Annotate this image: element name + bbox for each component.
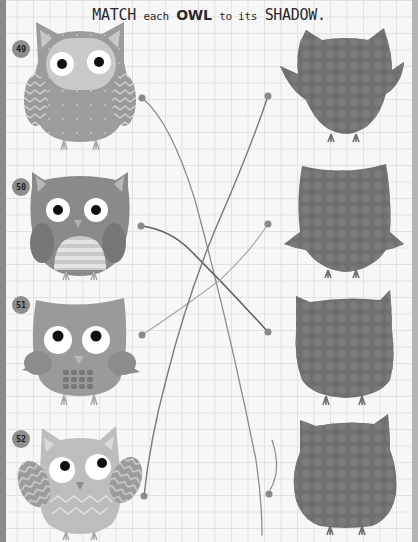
artwork <box>0 0 418 542</box>
owl-49[interactable] <box>24 22 136 150</box>
owl-51[interactable] <box>22 298 140 405</box>
shadow-d[interactable] <box>294 414 397 535</box>
badge-51: 51 <box>12 296 30 314</box>
shadow-b[interactable] <box>284 164 404 278</box>
owl-52[interactable] <box>12 426 149 540</box>
string-owl52 <box>144 96 268 496</box>
string-owl50 <box>142 226 268 332</box>
owl-50[interactable] <box>30 172 130 280</box>
string-owl49 <box>142 98 262 535</box>
shadow-a[interactable] <box>280 28 404 142</box>
badge-50: 50 <box>12 178 30 196</box>
matching-strings <box>142 96 277 535</box>
badge-52: 52 <box>12 430 30 448</box>
string-extra <box>270 440 277 490</box>
badge-49: 49 <box>12 40 30 58</box>
shadow-c[interactable] <box>296 290 394 405</box>
string-owl51 <box>142 224 268 335</box>
